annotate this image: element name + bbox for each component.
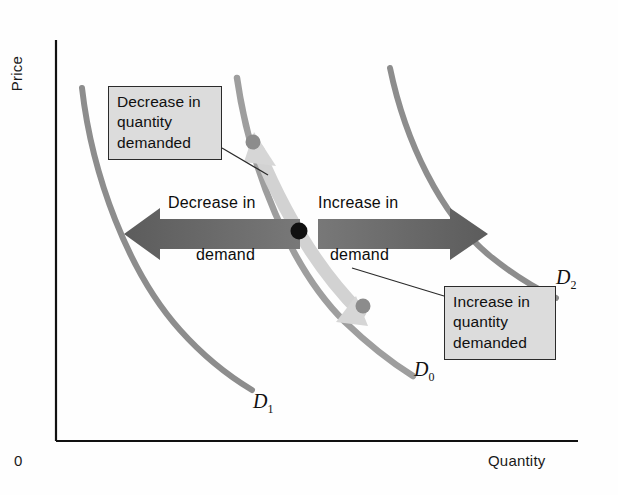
demand-diagram: Price Quantity 0 Decrease in quantity de… [0,0,618,495]
decrease-demand-label-bottom: demand [196,246,255,264]
equilibrium-point [291,223,308,240]
x-axis-label: Quantity [488,452,545,469]
y-axis-label: Price [8,56,25,91]
curve-label-d2-letter: D [556,266,570,288]
diagram-graphics [0,0,618,495]
decrease-demand-label-top: Decrease in [168,194,256,212]
increase-demand-label-bottom: demand [330,246,389,264]
curve-label-d2: D2 [556,266,576,293]
demand-curve-d2 [390,68,556,298]
curve-label-d1: D1 [253,390,273,417]
origin-label: 0 [14,452,23,469]
increase-demand-label-top: Increase in [318,194,398,212]
curve-label-d1-sub: 1 [267,402,273,416]
curve-label-d0: D0 [414,358,434,385]
curve-label-d0-letter: D [414,358,428,380]
callout-decrease-quantity-demanded: Decrease in quantity demanded [108,86,222,160]
lower-point [356,299,371,314]
leader-line-increase-qd [352,268,444,296]
upper-point [246,135,261,150]
curve-label-d1-letter: D [253,390,267,412]
curve-label-d0-sub: 0 [428,370,434,384]
callout-increase-quantity-demanded: Increase in quantity demanded [444,286,556,360]
curve-label-d2-sub: 2 [570,278,576,292]
